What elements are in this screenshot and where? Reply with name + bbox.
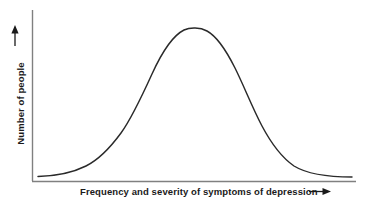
x-axis-label: Frequency and severity of symptoms of de… [80, 186, 318, 197]
bell-curve-plot [0, 0, 369, 208]
y-axis-label: Number of people [15, 44, 26, 164]
bell-curve-path [38, 28, 352, 177]
chart-figure: Number of people Frequency and severity … [0, 0, 369, 208]
